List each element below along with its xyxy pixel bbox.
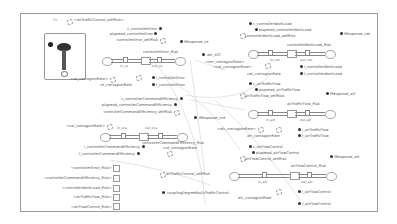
flow-in-cce: in_cce (117, 126, 127, 130)
aux-dot-icon (330, 155, 333, 158)
var-c-afc: c_airFlowControl (253, 145, 283, 149)
dot-icon (48, 42, 53, 47)
flow-pipe (149, 59, 175, 63)
param-f-cce: f_controllerCommandEfficiency (79, 152, 135, 156)
valve-icon (268, 110, 273, 116)
aux-dot-icon (298, 190, 301, 193)
loop-icon (107, 124, 113, 130)
stock-title-cce: controllerCommandEfficiency_Risk (142, 141, 204, 145)
aux-dot-icon (298, 134, 301, 137)
aux-dot-icon (202, 53, 205, 56)
shadow-cer-contagion: <cer_contagionRate> (205, 60, 245, 64)
aux-dot-icon (326, 92, 329, 95)
atf-contagion-rate: atf_contagionRate (247, 134, 280, 138)
aux-dot-icon (152, 83, 155, 86)
loop-icon (174, 110, 180, 116)
var-c-atf: c_airTrafficFlow (253, 82, 280, 86)
aux-dot-icon (300, 72, 303, 75)
cwl-contagion-rate: cwl_contagionRate (247, 72, 281, 76)
valve-icon (121, 133, 126, 139)
aux-dot-icon (249, 145, 252, 148)
cloud-sink-icon (325, 110, 336, 119)
flow-pipe (295, 52, 325, 56)
aux-dot-icon (152, 76, 155, 79)
var-controllerError-selfRisk: controllerError_selfRisk (117, 38, 159, 42)
flow-out-cce: out_cce (145, 126, 157, 130)
valve-icon (158, 133, 163, 139)
valve-icon (262, 172, 267, 178)
stock-title-cwl: controllerWorkLoad_Risk (287, 43, 331, 47)
shadow-afc-contagion: <afc_contagionRate> (217, 127, 256, 131)
loop-icon (265, 63, 271, 69)
response-cce: fResponse_cce (199, 116, 225, 120)
aux-dot-icon (255, 88, 258, 91)
valve-icon (268, 50, 273, 56)
loop-icon (276, 127, 282, 133)
flow-in-atf: in_atf (266, 118, 275, 122)
stock-title-controllerError: controllerError_Risk (143, 50, 178, 54)
valve-icon (305, 50, 310, 56)
response-atf: fResponse_atf (330, 92, 355, 96)
risk-box-atf[interactable] (113, 194, 120, 201)
cloud-icon (61, 71, 68, 77)
aux-dot-icon (249, 82, 252, 85)
valve-icon (123, 57, 128, 63)
flow-out-afc: out_afc (301, 180, 313, 184)
flow-out-cwl: out_cwl (300, 58, 312, 62)
risk-label-atf: <airTrafficFlow_Risk> (73, 195, 112, 199)
var-afc-selfrisk: airFlowControl_selfRisk (245, 157, 286, 161)
risk-box-ce[interactable] (113, 165, 120, 172)
aux-dot-icon (180, 97, 183, 100)
risk-box-cwl[interactable] (113, 185, 120, 192)
aux-dot-icon (142, 145, 145, 148)
var-c-cce: c_controllerCommandEfficiency (121, 97, 178, 101)
var-cce-selfrisk: controllerCommandEfficiency_selfRisk (103, 110, 172, 114)
risk-label-afc: <airFlowControl_Risk> (71, 205, 112, 209)
aux-dot-icon (249, 22, 252, 25)
var-atf-selfrisk: airTrafficFlow_selfRisk (245, 94, 284, 98)
aux-dot-icon (174, 103, 177, 106)
aux-dot-icon (137, 152, 140, 155)
shadow-cal-contagion-left: <cal_contagionRate> (66, 124, 105, 128)
shadow-atc-selfrisk: <airTrafficControl_selfRisk> (74, 18, 124, 22)
aux-dot-icon (340, 32, 343, 35)
param-i-controllerError: i_controllerError (156, 76, 185, 80)
ce-contagion-rate: ce_contagionRate (100, 83, 132, 87)
loop-icon (258, 127, 264, 133)
cloud-sink-icon (175, 57, 186, 66)
param-f-cwl: f_controllerWorkLoad (304, 72, 342, 76)
cce-contagion-rate: cce_contagionRate (163, 146, 197, 150)
valve-stem-icon (62, 50, 66, 70)
param-i-afc: i_airFlowControl (302, 190, 331, 194)
aux-dot-icon (154, 32, 157, 35)
param-f-atf: f_airTrafficFlow (302, 134, 329, 138)
shadow-loop-icon (67, 19, 73, 25)
loop-icon (276, 189, 282, 195)
risk-box-cce[interactable] (113, 175, 120, 182)
risk-box-afc[interactable] (113, 203, 120, 210)
flow-in-ce: in_ce (120, 64, 128, 68)
stock-title-afc: airFlowControl_Risk (291, 164, 326, 168)
aux-dot-icon (180, 40, 183, 43)
valve-icon (305, 110, 310, 116)
stock-title-atf: airTrafficFlow_Risk (287, 102, 320, 106)
var-plspread-afc: plspread_airFlowControl (256, 151, 299, 155)
risk-label-cce: <controllerCommandEfficiency_Risk> (44, 176, 112, 180)
aux-dot-icon (255, 28, 258, 31)
var-plspread-atf: plspread_airTrafficFlow (259, 88, 300, 92)
response-afc: fResponse_afc (334, 155, 360, 159)
shadow-ce-contagion: <ce_contagionRate> (70, 77, 108, 81)
valve-icon (157, 57, 162, 63)
response-ce: fResponse_ce (184, 40, 209, 44)
param-i-cwl: i_controllerWorkLoad (304, 65, 342, 69)
legend-icon-box (44, 33, 86, 80)
aux-dot-icon (159, 27, 162, 30)
atc-selfrisk: airTrafficControl_selfRisk (166, 172, 210, 176)
shadow-cal-contagion: <cal_contagionRate> (213, 65, 252, 69)
afc-contagion-rate: afc_contagionRate (238, 196, 271, 200)
var-plspread-cce: plspread_controllerCommandEfficiency (102, 103, 172, 107)
cloud-sink-icon (325, 50, 336, 59)
var-plspread-controllerError: plspread_controllerError (110, 32, 153, 36)
flow-out-ce: out_ce (152, 64, 163, 68)
loop-icon (167, 151, 173, 157)
